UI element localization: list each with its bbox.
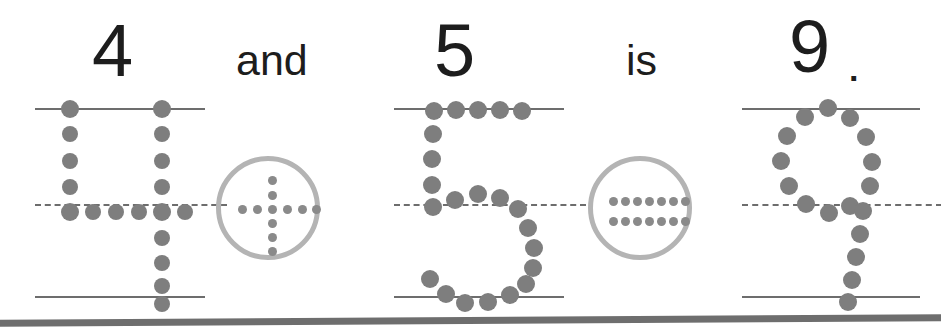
- trace-dot: [447, 101, 465, 119]
- trace-dot: [437, 285, 455, 303]
- operator-dot: [268, 191, 277, 200]
- trace-dot: [479, 293, 497, 311]
- trace-dot: [61, 203, 79, 221]
- guide-line-bottom: [742, 296, 920, 298]
- operator-dot: [657, 197, 666, 206]
- trace-dot: [153, 100, 171, 118]
- operator-dot: [657, 217, 666, 226]
- trace-dot: [61, 100, 79, 118]
- operator-dot: [283, 205, 292, 214]
- operator-plus[interactable]: [216, 156, 320, 260]
- trace-dot: [491, 101, 509, 119]
- trace-dot: [851, 225, 869, 243]
- trace-dot: [62, 179, 78, 195]
- trace-dot: [772, 152, 790, 170]
- trace-dot: [154, 296, 170, 312]
- operator-dot: [633, 217, 642, 226]
- trace-dot: [153, 203, 171, 221]
- trace-dot: [154, 230, 170, 246]
- operator-dot: [681, 197, 690, 206]
- trace-dot: [469, 101, 487, 119]
- trace-dot: [501, 286, 519, 304]
- operator-equals[interactable]: [588, 156, 692, 260]
- trace-dot: [85, 204, 101, 220]
- operator-dot: [312, 205, 321, 214]
- trace-dot: [62, 126, 78, 142]
- trace-dot: [517, 275, 535, 293]
- trace-dot: [525, 239, 543, 257]
- operator-dot: [621, 217, 630, 226]
- trace-numeral-9[interactable]: [742, 100, 920, 305]
- operator-dot: [633, 197, 642, 206]
- operator-dot: [253, 205, 262, 214]
- caption-numeral-4: 4: [92, 14, 132, 88]
- caption-numeral-9: 9: [789, 10, 829, 84]
- trace-dot: [819, 99, 837, 117]
- operator-dot: [645, 197, 654, 206]
- operator-dot: [268, 219, 277, 228]
- trace-dot: [857, 128, 875, 146]
- trace-dot: [446, 191, 464, 209]
- trace-dot: [424, 198, 442, 216]
- operator-dot: [681, 217, 690, 226]
- operator-dot: [268, 176, 277, 185]
- operator-dot: [609, 217, 618, 226]
- trace-dot: [797, 195, 815, 213]
- trace-dot: [424, 125, 442, 143]
- trace-dot: [154, 179, 170, 195]
- trace-dot: [843, 271, 861, 289]
- trace-dot: [796, 108, 814, 126]
- guide-line-bottom: [35, 296, 205, 298]
- trace-dot: [778, 127, 796, 145]
- operator-dot: [669, 217, 678, 226]
- trace-dot: [62, 153, 78, 169]
- trace-dot: [423, 176, 441, 194]
- caption-row: 4 and 5 is 9 .: [0, 0, 941, 96]
- page-edge: [0, 314, 941, 327]
- trace-dot: [421, 270, 439, 288]
- trace-dot: [513, 102, 531, 120]
- operator-dot: [268, 247, 277, 256]
- trace-dot: [863, 153, 881, 171]
- trace-dot: [839, 293, 857, 311]
- trace-dot: [154, 126, 170, 142]
- operator-dot: [298, 205, 307, 214]
- caption-numeral-5: 5: [434, 14, 474, 88]
- trace-numeral-4[interactable]: [35, 100, 205, 305]
- trace-dot: [154, 255, 170, 271]
- caption-word-and: and: [236, 39, 308, 82]
- caption-period: .: [849, 52, 858, 86]
- operator-dot: [621, 197, 630, 206]
- trace-dot: [780, 177, 798, 195]
- trace-dot: [854, 202, 872, 220]
- trace-dot: [519, 219, 537, 237]
- trace-dot: [154, 153, 170, 169]
- trace-dot: [861, 177, 879, 195]
- trace-dot: [177, 204, 193, 220]
- trace-dot: [108, 204, 124, 220]
- operator-dot: [669, 197, 678, 206]
- trace-dot: [131, 204, 147, 220]
- operator-dot: [609, 197, 618, 206]
- trace-dot: [491, 189, 509, 207]
- trace-dot: [423, 150, 441, 168]
- trace-dot: [425, 102, 443, 120]
- operator-dot: [268, 205, 277, 214]
- operator-dot: [268, 233, 277, 242]
- trace-dot: [847, 248, 865, 266]
- trace-dot: [456, 294, 474, 312]
- trace-numeral-5[interactable]: [394, 100, 564, 305]
- trace-dot: [154, 278, 170, 294]
- operator-dot: [645, 217, 654, 226]
- worksheet-page: 4 and 5 is 9 .: [0, 0, 941, 331]
- trace-dot: [841, 109, 859, 127]
- caption-word-is: is: [626, 39, 657, 82]
- guide-line-mid: [394, 204, 586, 206]
- trace-dot: [469, 185, 487, 203]
- trace-dot: [509, 200, 527, 218]
- trace-dot: [820, 204, 838, 222]
- operator-dot: [238, 205, 247, 214]
